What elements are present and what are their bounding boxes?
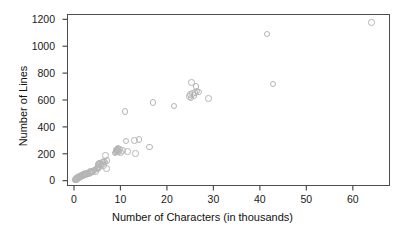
data-point bbox=[132, 150, 139, 157]
data-point bbox=[150, 99, 157, 106]
x-tick-label: 0 bbox=[54, 194, 94, 205]
x-tick-label: 10 bbox=[100, 194, 140, 205]
scatter-plot-figure: 0200400600800100012000102030405060 Numbe… bbox=[0, 0, 405, 236]
x-axis-label: Number of Characters (in thousands) bbox=[0, 211, 405, 223]
data-point bbox=[122, 108, 129, 115]
data-point bbox=[171, 103, 178, 110]
data-point bbox=[136, 136, 143, 143]
x-tick-label: 50 bbox=[286, 194, 326, 205]
data-point bbox=[205, 95, 212, 102]
y-tick-label: 1200 bbox=[15, 14, 55, 25]
data-point bbox=[104, 157, 111, 164]
data-point bbox=[368, 19, 375, 26]
x-tick-label: 60 bbox=[333, 194, 373, 205]
y-axis-label: Number of Lines bbox=[17, 36, 29, 176]
data-points-layer bbox=[67, 14, 390, 186]
data-point bbox=[264, 31, 271, 38]
y-tick-label: 0 bbox=[15, 175, 55, 186]
x-tick-label: 40 bbox=[240, 194, 280, 205]
data-point bbox=[124, 148, 131, 155]
data-point bbox=[103, 165, 110, 172]
data-point bbox=[146, 144, 153, 151]
data-point bbox=[270, 81, 277, 88]
x-tick-label: 30 bbox=[193, 194, 233, 205]
data-point bbox=[123, 138, 130, 145]
x-tick-label: 20 bbox=[147, 194, 187, 205]
data-point bbox=[195, 89, 202, 96]
